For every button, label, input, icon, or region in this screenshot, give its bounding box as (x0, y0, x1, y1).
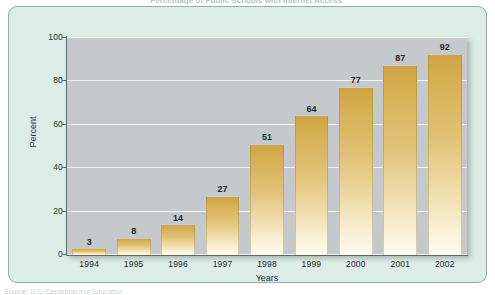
bar-value-2000: 77 (334, 75, 378, 85)
x-tick-label-1996: 1996 (156, 259, 200, 269)
bar-slot-2001: 87 (378, 37, 422, 255)
bar-slot-1994: 3 (67, 37, 111, 255)
bar-slot-2000: 77 (334, 37, 378, 255)
bar-slot-2002: 92 (423, 37, 467, 255)
chart-figure: Percentage of Public Schools with Intern… (0, 0, 495, 295)
y-tick-label-100: 100 (17, 32, 63, 42)
y-tick-label-80: 80 (17, 75, 63, 85)
y-tick-label-60: 60 (17, 119, 63, 129)
x-tick-label-1999: 1999 (289, 259, 333, 269)
bar-value-1998: 51 (245, 132, 289, 142)
x-tick-label-2000: 2000 (334, 259, 378, 269)
x-tick-label-2002: 2002 (423, 259, 467, 269)
bar-value-1994: 3 (67, 237, 111, 247)
x-tick-label-1997: 1997 (200, 259, 244, 269)
bar-slot-1998: 51 (245, 37, 289, 255)
bar-2000[interactable] (339, 87, 373, 255)
y-tick-label-20: 20 (17, 206, 63, 216)
bars-layer: 3 8 14 27 51 64 (67, 37, 467, 255)
bar-2002[interactable] (428, 54, 462, 255)
bar-value-1997: 27 (200, 184, 244, 194)
x-axis-label: Years (67, 273, 467, 283)
bar-slot-1999: 64 (289, 37, 333, 255)
bar-1995[interactable] (117, 238, 151, 255)
bar-slot-1997: 27 (200, 37, 244, 255)
bar-value-1995: 8 (111, 226, 155, 236)
x-tick-label-2001: 2001 (378, 259, 422, 269)
figure-source-sliver: Source: U.S. Department of Education (4, 288, 304, 295)
bar-1999[interactable] (295, 115, 329, 255)
bar-value-1996: 14 (156, 213, 200, 223)
bar-slot-1995: 8 (111, 37, 155, 255)
bar-1996[interactable] (161, 224, 195, 255)
bar-1994[interactable] (72, 248, 106, 255)
bar-value-2001: 87 (378, 53, 422, 63)
figure-title-sliver: Percentage of Public Schools with Intern… (150, 0, 370, 4)
bar-1997[interactable] (206, 196, 240, 255)
x-tick-label-1998: 1998 (245, 259, 289, 269)
bar-2001[interactable] (383, 65, 417, 255)
bar-value-1999: 64 (289, 104, 333, 114)
chart-card: 100 80 60 40 20 0 Percent 3 8 14 (8, 6, 487, 283)
y-axis-label: Percent (28, 102, 38, 162)
y-axis-ticks: 100 80 60 40 20 0 (13, 7, 63, 295)
bar-1998[interactable] (250, 144, 284, 255)
x-axis-line (66, 255, 468, 256)
bar-value-2002: 92 (423, 42, 467, 52)
x-tick-label-1995: 1995 (111, 259, 155, 269)
bar-slot-1996: 14 (156, 37, 200, 255)
y-tick-label-40: 40 (17, 162, 63, 172)
y-tick-label-0: 0 (17, 249, 63, 259)
x-tick-label-1994: 1994 (67, 259, 111, 269)
